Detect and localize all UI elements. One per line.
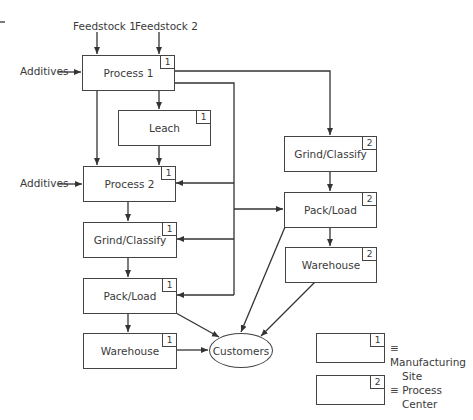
legend-line-1: Process xyxy=(402,384,442,396)
site-badge: 2 xyxy=(362,192,377,206)
equiv-symbol: ≡ xyxy=(390,384,399,396)
site-badge: 2 xyxy=(362,247,377,261)
leach-box: Leach 1 xyxy=(118,110,211,146)
pack-load-2-box: Pack/Load 2 xyxy=(284,192,377,228)
legend-text-1: ≡ Manufacturing Site xyxy=(390,341,473,383)
customers-node: Customers xyxy=(209,333,273,368)
site-badge: 1 xyxy=(162,333,177,347)
site-badge: 1 xyxy=(162,278,177,292)
grind-classify-2-box: Grind/Classify 2 xyxy=(284,136,377,172)
customers-label: Customers xyxy=(210,345,272,357)
site-badge: 1 xyxy=(162,222,177,236)
feedstock-1-label: Feedstock 1 xyxy=(73,20,136,32)
legend-badge-1: 1 xyxy=(370,333,385,347)
legend-badge-2: 2 xyxy=(370,375,385,389)
feedstock-2-label: Feedstock 2 xyxy=(135,20,198,32)
legend-box-1: 1 xyxy=(316,333,385,363)
legend-line-2: Site xyxy=(390,370,422,382)
process-1-box: Process 1 1 xyxy=(82,55,175,91)
warehouse-2-box: Warehouse 2 xyxy=(285,247,377,283)
legend-box-2: 2 xyxy=(316,375,385,405)
site-badge: 1 xyxy=(161,166,176,180)
legend-text-2: ≡ Process Center xyxy=(390,383,442,411)
process-2-box: Process 2 1 xyxy=(83,166,176,202)
additives-1-label: Additives xyxy=(20,65,68,77)
grind-classify-1-box: Grind/Classify 1 xyxy=(83,222,177,258)
pack-load-1-box: Pack/Load 1 xyxy=(83,278,177,314)
legend-line-1: Manufacturing xyxy=(390,356,466,368)
site-badge: 2 xyxy=(362,136,377,150)
additives-2-label: Additives xyxy=(20,177,68,189)
site-badge: 1 xyxy=(160,55,175,69)
equiv-symbol: ≡ xyxy=(390,342,399,354)
site-badge: 1 xyxy=(196,110,211,124)
warehouse-1-box: Warehouse 1 xyxy=(83,333,177,369)
legend-line-2: Center xyxy=(390,398,437,410)
